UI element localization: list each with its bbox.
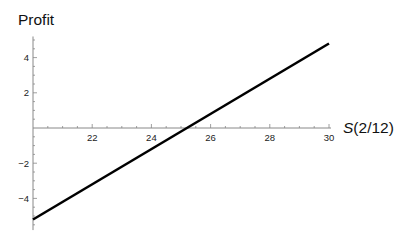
profit-line-chart: 2224262830−4−224 Profit S(2/12) (0, 0, 405, 242)
profit-line (33, 44, 329, 220)
x-tick-label: 30 (324, 132, 335, 143)
y-axis-title: Profit (18, 11, 55, 28)
data-series (33, 44, 329, 220)
x-axis-title: S(2/12) (343, 119, 394, 136)
axes (33, 36, 331, 230)
y-tick-label: −2 (18, 158, 29, 169)
x-tick-label: 28 (265, 132, 276, 143)
y-tick-label: 2 (24, 87, 29, 98)
y-tick-label: −4 (18, 193, 29, 204)
x-tick-label: 24 (146, 132, 157, 143)
x-axis-title-rest: (2/12) (353, 119, 394, 136)
x-tick-label: 22 (87, 132, 98, 143)
x-axis-title-variable: S (343, 119, 354, 136)
x-tick-label: 26 (205, 132, 216, 143)
y-tick-label: 4 (24, 52, 29, 63)
